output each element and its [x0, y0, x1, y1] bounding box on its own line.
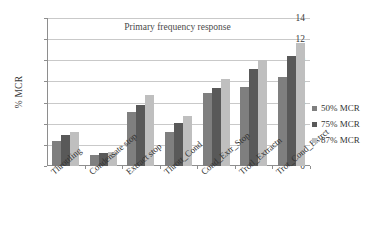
legend-item[interactable]: 75% MCR: [312, 116, 382, 132]
bar: [278, 77, 287, 166]
bar-group: [88, 18, 119, 166]
legend-label: 50% MCR: [321, 103, 360, 113]
legend-label: 75% MCR: [321, 119, 360, 129]
chart-legend: 50% MCR75% MCR87% MCR: [312, 100, 382, 148]
x-axis-category-labels: ThrottlingCondensate stopExtract stopThr…: [47, 167, 337, 242]
bar: [287, 56, 296, 166]
bar: [240, 87, 249, 166]
legend-swatch-icon: [312, 122, 317, 127]
bar-group: [50, 18, 81, 166]
legend-item[interactable]: 87% MCR: [312, 132, 382, 148]
legend-swatch-icon: [312, 138, 317, 143]
legend-item[interactable]: 50% MCR: [312, 100, 382, 116]
y-axis-title: % MCR: [14, 62, 24, 122]
chart-title: Primary frequency response: [90, 22, 265, 32]
legend-label: 87% MCR: [321, 135, 360, 145]
bar-group: [163, 18, 194, 166]
legend-swatch-icon: [312, 106, 317, 111]
bar: [203, 93, 212, 166]
chart-container: % MCR 02468101214 Primary frequency resp…: [0, 0, 384, 242]
